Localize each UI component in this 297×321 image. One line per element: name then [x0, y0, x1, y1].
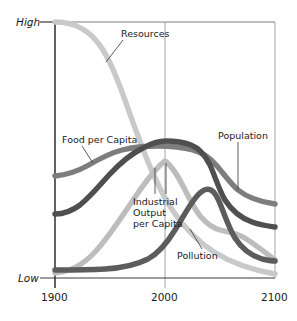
leader-resources — [106, 40, 123, 62]
x-axis-label-2100: 2100 — [261, 291, 288, 303]
series-label-industrial-output-line1: Industrial — [133, 196, 178, 207]
y-axis-label-low: Low — [18, 272, 39, 284]
series-label-pollution: Pollution — [177, 250, 218, 261]
leader-food-per-capita — [82, 146, 93, 163]
series-label-population: Population — [218, 130, 268, 141]
limits-to-growth-chart: High Low 1900 2000 2100 Resources Food p… — [0, 0, 297, 321]
series-label-food-per-capita: Food per Capita — [62, 134, 137, 145]
series-label-industrial-output-line3: per Capita — [133, 218, 182, 229]
x-axis-label-2000: 2000 — [151, 291, 178, 303]
series-label-resources: Resources — [121, 28, 170, 39]
x-axis-label-1900: 1900 — [41, 291, 68, 303]
series-label-industrial-output-line2: Output — [133, 207, 166, 218]
chart-container: High Low 1900 2000 2100 Resources Food p… — [0, 0, 297, 321]
y-axis-label-high: High — [16, 16, 40, 28]
